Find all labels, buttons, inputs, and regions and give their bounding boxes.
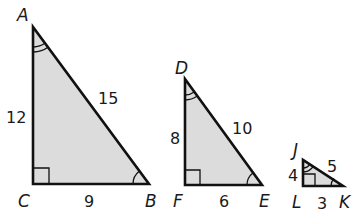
- side-label-jl: 4: [288, 166, 298, 185]
- vertex-label-e: E: [259, 191, 270, 211]
- side-label-de: 10: [232, 119, 252, 138]
- similar-triangles-diagram: A C B 12 9 15 D F E 8 6 10 J L K 4 3 5: [0, 0, 355, 216]
- triangle-jkl: J L K 4 3 5: [288, 140, 352, 213]
- side-label-ac: 12: [6, 108, 26, 127]
- vertex-label-c: C: [18, 191, 30, 211]
- side-label-cb: 9: [84, 192, 94, 211]
- vertex-label-d: D: [175, 58, 188, 78]
- vertex-label-k: K: [339, 192, 352, 212]
- side-label-df: 8: [170, 129, 180, 148]
- side-label-ab: 15: [98, 89, 118, 108]
- triangle-def: D F E 8 6 10: [170, 58, 270, 211]
- side-label-lk: 3: [317, 194, 327, 213]
- triangle-abc: A C B 12 9 15: [6, 5, 157, 211]
- vertex-label-j: J: [290, 140, 298, 160]
- vertex-label-a: A: [16, 5, 29, 25]
- vertex-label-b: B: [145, 191, 157, 211]
- side-label-fe: 6: [219, 192, 229, 211]
- vertex-label-l: L: [292, 192, 301, 212]
- vertex-label-f: F: [173, 191, 183, 211]
- side-label-jk: 5: [327, 157, 337, 176]
